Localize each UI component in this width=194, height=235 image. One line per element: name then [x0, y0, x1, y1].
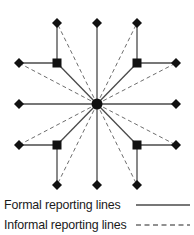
- formal-reporting-line: [57, 63, 97, 104]
- informal-reporting-line: [97, 63, 176, 104]
- staff-diamond-node: [92, 18, 102, 28]
- staff-diamond-node: [132, 180, 142, 190]
- manager-square-node: [53, 59, 62, 68]
- informal-reporting-line: [97, 104, 137, 185]
- informal-reporting-line: [97, 23, 137, 104]
- staff-diamond-node: [52, 180, 62, 190]
- org-network-diagram: Formal reporting lines Informal reportin…: [0, 0, 194, 235]
- staff-diamond-node: [132, 18, 142, 28]
- staff-diamond-node: [14, 140, 24, 150]
- staff-diamond-node: [171, 99, 181, 109]
- staff-diamond-node: [92, 180, 102, 190]
- manager-square-node: [133, 141, 142, 150]
- legend-row-formal: Formal reporting lines: [0, 196, 194, 215]
- informal-reporting-line: [97, 104, 176, 145]
- formal-reporting-line: [57, 104, 97, 145]
- legend: Formal reporting lines Informal reportin…: [0, 196, 194, 235]
- staff-diamond-node: [171, 140, 181, 150]
- legend-sample-formal-solid-line: [135, 196, 191, 214]
- staff-diamond-node: [52, 18, 62, 28]
- legend-label-formal: Formal reporting lines: [4, 196, 121, 214]
- manager-square-node: [133, 59, 142, 68]
- informal-reporting-line: [19, 104, 97, 145]
- legend-sample-informal-dashed-line: [135, 216, 191, 234]
- legend-label-informal: Informal reporting lines: [4, 216, 126, 234]
- center-hub-node: [92, 99, 103, 110]
- staff-diamond-node: [14, 58, 24, 68]
- informal-reporting-line: [19, 63, 97, 104]
- formal-reporting-line: [97, 104, 137, 145]
- manager-square-node: [53, 141, 62, 150]
- legend-row-informal: Informal reporting lines: [0, 216, 194, 235]
- formal-reporting-line: [97, 63, 137, 104]
- informal-reporting-line: [57, 104, 97, 185]
- network-graph: [0, 0, 194, 196]
- informal-reporting-line: [57, 23, 97, 104]
- staff-diamond-node: [14, 99, 24, 109]
- staff-diamond-node: [171, 58, 181, 68]
